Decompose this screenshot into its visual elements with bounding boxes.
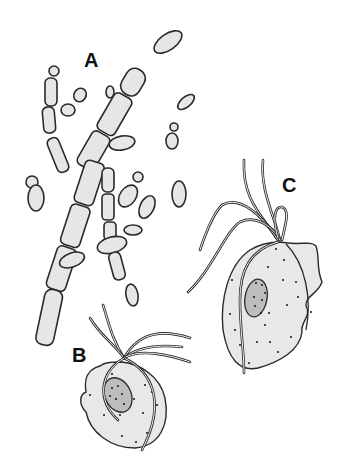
illustration — [0, 0, 349, 466]
figure-canvas: A B C — [0, 0, 349, 466]
label-a: A — [84, 50, 98, 70]
label-c: C — [282, 175, 296, 195]
panel-b-trichomonas — [81, 305, 190, 450]
panel-a-candida — [26, 26, 197, 346]
panel-c-trichomonas — [188, 160, 322, 373]
label-b: B — [72, 345, 86, 365]
